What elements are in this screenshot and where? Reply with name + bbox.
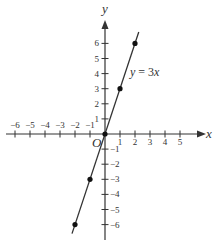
y-tick-label: −3 (110, 174, 120, 184)
x-axis-arrow-icon (197, 131, 206, 138)
data-point (72, 222, 77, 227)
y-tick-label: −2 (110, 159, 120, 169)
x-tick-label: 3 (148, 137, 153, 147)
y-tick-label: −6 (110, 220, 120, 230)
x-tick-label: 5 (178, 137, 183, 147)
x-tick-label: 4 (163, 137, 168, 147)
data-point (117, 86, 122, 91)
y-axis-arrow-icon (102, 20, 109, 29)
y-tick-label: 2 (95, 99, 100, 109)
y-tick-label: −5 (110, 205, 120, 215)
data-point (132, 41, 137, 46)
y-tick-label: 3 (95, 84, 100, 94)
y-tick-label: 4 (95, 69, 100, 79)
y-tick-label: −1 (110, 144, 120, 154)
x-tick-label: −2 (70, 120, 80, 130)
x-axis-label: x (205, 126, 212, 141)
x-tick-label: 2 (133, 137, 138, 147)
x-tick-label: −1 (85, 120, 95, 130)
x-tick-label: −3 (55, 120, 65, 130)
y-axis-label: y (100, 1, 108, 16)
line-chart: −6−5−4−3−2−112345654321−1−2−3−4−5−6 x y … (0, 0, 220, 242)
y-tick-label: 6 (95, 38, 100, 48)
y-tick-label: −4 (110, 189, 120, 199)
y-tick-label: 5 (95, 54, 100, 64)
origin-label: O (92, 135, 102, 150)
x-tick-label: −5 (25, 120, 35, 130)
equation-label: y = 3x (129, 65, 160, 79)
data-point (102, 131, 107, 136)
x-tick-label: −4 (40, 120, 50, 130)
y-tick-label: 1 (95, 114, 100, 124)
data-point (87, 177, 92, 182)
x-tick-label: −6 (10, 120, 20, 130)
